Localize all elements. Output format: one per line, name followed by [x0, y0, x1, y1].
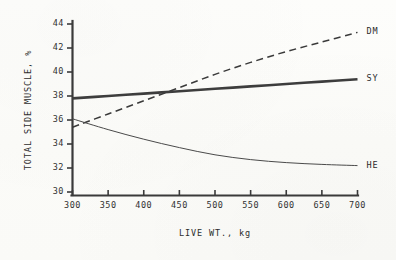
x-tick-label-350: 350: [93, 200, 123, 210]
y-axis-title: TOTAL SIDE MUSCLE, %: [23, 35, 33, 185]
x-tick-label-500: 500: [200, 200, 230, 210]
x-tick-label-450: 450: [164, 200, 194, 210]
y-tick-label-30: 30: [40, 186, 64, 196]
y-tick-label-40: 40: [40, 66, 64, 76]
y-tick-label-32: 32: [40, 162, 64, 172]
series-line-he: [73, 119, 358, 166]
y-tick-label-44: 44: [40, 18, 64, 28]
plot-area: [0, 0, 396, 260]
x-tick-label-650: 650: [307, 200, 337, 210]
chart-figure: TOTAL SIDE MUSCLE, % LIVE WT., kg 444240…: [0, 0, 396, 260]
y-tick-label-42: 42: [40, 42, 64, 52]
data-series-group: [73, 32, 358, 165]
series-line-dm: [73, 32, 358, 127]
x-tick-label-300: 300: [58, 200, 88, 210]
x-tick-label-700: 700: [343, 200, 373, 210]
y-tick-label-38: 38: [40, 90, 64, 100]
series-label-he: HE: [367, 160, 379, 170]
x-tick-label-600: 600: [271, 200, 301, 210]
x-axis-title: LIVE WT., kg: [0, 228, 396, 238]
series-label-sy: SY: [367, 73, 379, 83]
x-tick-label-400: 400: [129, 200, 159, 210]
axes: [72, 21, 359, 196]
series-label-dm: DM: [367, 26, 379, 36]
y-tick-label-34: 34: [40, 138, 64, 148]
series-line-sy: [73, 79, 358, 98]
y-tick-label-36: 36: [40, 114, 64, 124]
x-tick-label-550: 550: [236, 200, 266, 210]
